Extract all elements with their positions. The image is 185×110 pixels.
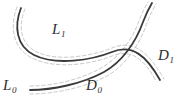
label-D0-subscript: 0 (97, 85, 102, 95)
label-L0-subscript: 0 (12, 85, 17, 95)
label-L0-base: L (3, 77, 12, 93)
d-curve-upper-dashed-boundary (30, 2, 148, 86)
label-D1-subscript: 1 (169, 55, 174, 65)
figure-canvas: L1 L0 D1 D0 (0, 0, 185, 110)
label-L0: L0 (3, 78, 16, 95)
l-curve-upper-dashed-boundary (13, 7, 156, 81)
l-curve-lower-dashed-boundary (21, 9, 164, 79)
label-L1: L1 (52, 22, 65, 39)
label-L1-subscript: 1 (61, 29, 66, 39)
label-D0-base: D (86, 77, 97, 93)
label-L1-base: L (52, 21, 61, 37)
label-D1-base: D (158, 47, 169, 63)
label-D1: D1 (158, 48, 174, 65)
label-D0: D0 (86, 78, 102, 95)
l-curve (17, 8, 160, 80)
